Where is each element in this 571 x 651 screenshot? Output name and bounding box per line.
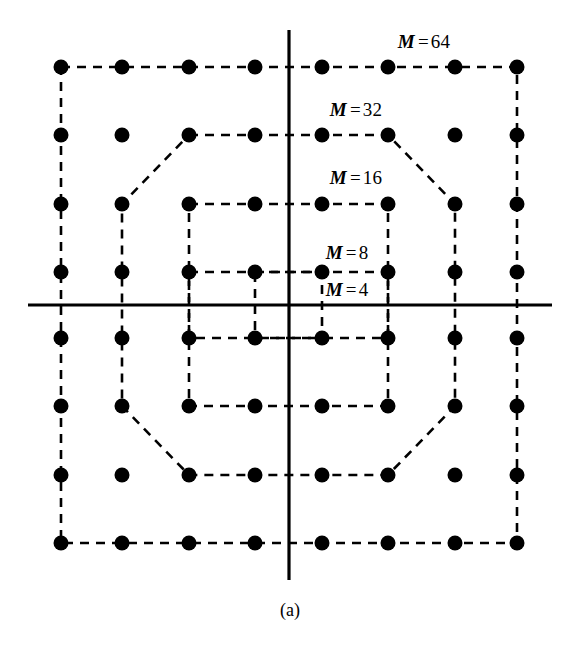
constellation-point (510, 60, 525, 75)
m-8-value: 8 (359, 242, 369, 263)
m-32-label: M=32 (330, 99, 382, 121)
constellation-diagram (0, 0, 571, 651)
constellation-point (315, 60, 330, 75)
constellation-point (315, 128, 330, 143)
constellation-point (510, 536, 525, 551)
constellation-point (248, 60, 263, 75)
constellation-point (182, 331, 197, 346)
constellation-point (448, 128, 463, 143)
constellation-point (510, 399, 525, 414)
constellation-point (54, 197, 69, 212)
constellation-point (381, 265, 396, 280)
m-64-equals: = (416, 31, 431, 52)
constellation-point (182, 128, 197, 143)
constellation-point (248, 331, 263, 346)
constellation-point (54, 265, 69, 280)
m-4-label: M=4 (326, 279, 369, 301)
constellation-point (182, 60, 197, 75)
constellation-point (448, 468, 463, 483)
constellation-point (248, 468, 263, 483)
m-16-value: 16 (363, 167, 382, 188)
constellation-point (448, 197, 463, 212)
m-4-equals: = (344, 279, 359, 300)
constellation-point (315, 331, 330, 346)
m-32-equals: = (348, 99, 363, 120)
constellation-point (448, 265, 463, 280)
constellation-point (182, 468, 197, 483)
m-16-equals: = (348, 167, 363, 188)
constellation-point (448, 536, 463, 551)
figure-caption: (a) (280, 600, 300, 621)
constellation-point (115, 331, 130, 346)
constellation-point (315, 197, 330, 212)
constellation-point (115, 265, 130, 280)
constellation-point (248, 399, 263, 414)
constellation-point (381, 468, 396, 483)
m-64-label: M=64 (398, 31, 450, 53)
m-4-variable: M (326, 279, 344, 300)
constellation-point (381, 60, 396, 75)
constellation-point (182, 265, 197, 280)
constellation-point (510, 331, 525, 346)
constellation-point (315, 536, 330, 551)
constellation-point (54, 468, 69, 483)
constellation-point (248, 128, 263, 143)
constellation-point (54, 399, 69, 414)
constellation-point (510, 197, 525, 212)
constellation-point (182, 536, 197, 551)
m-32-value: 32 (363, 99, 382, 120)
m-64-variable: M (398, 31, 416, 52)
constellation-point (54, 536, 69, 551)
m-32-variable: M (330, 99, 348, 120)
constellation-point (248, 536, 263, 551)
constellation-point (315, 265, 330, 280)
constellation-point (510, 265, 525, 280)
constellation-point (115, 536, 130, 551)
constellation-point (381, 331, 396, 346)
m-64-value: 64 (431, 31, 450, 52)
constellation-point (115, 197, 130, 212)
m-16-variable: M (330, 167, 348, 188)
constellation-point (381, 128, 396, 143)
constellation-point (182, 399, 197, 414)
axes-group (28, 30, 552, 580)
constellation-point (510, 128, 525, 143)
constellation-point (115, 60, 130, 75)
constellation-point (115, 468, 130, 483)
m-8-label: M=8 (326, 242, 369, 264)
constellation-point (115, 128, 130, 143)
constellation-point (54, 60, 69, 75)
m-4-value: 4 (359, 279, 369, 300)
constellation-point (182, 197, 197, 212)
constellation-point (315, 399, 330, 414)
constellation-point (115, 399, 130, 414)
m-8-variable: M (326, 242, 344, 263)
m-8-equals: = (344, 242, 359, 263)
constellation-point (54, 331, 69, 346)
constellation-point (381, 197, 396, 212)
constellation-point (54, 128, 69, 143)
constellation-point (448, 331, 463, 346)
constellation-point (448, 60, 463, 75)
figure-container: M=64 M=32 M=16 M=8 M=4 (a) (0, 0, 571, 651)
constellation-point (448, 399, 463, 414)
constellation-point (510, 468, 525, 483)
constellation-point (248, 197, 263, 212)
m-16-label: M=16 (330, 167, 382, 189)
constellation-point (381, 399, 396, 414)
constellation-point (315, 468, 330, 483)
constellation-point (248, 265, 263, 280)
constellation-point (381, 536, 396, 551)
